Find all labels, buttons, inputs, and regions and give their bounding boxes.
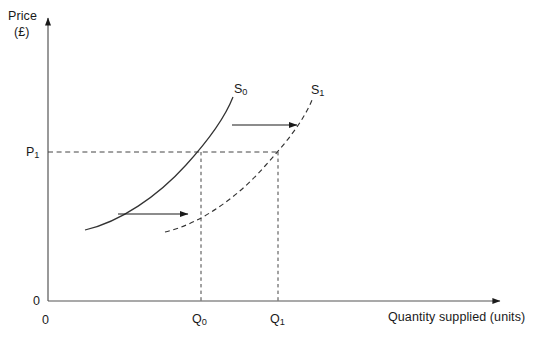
curve-label-s0: S0 [234, 82, 248, 96]
curve-label-s1-subscript: 1 [319, 88, 324, 98]
curve-label-s1: S1 [311, 83, 325, 97]
y-axis-title: Price [8, 9, 37, 23]
x-axis-title: Quantity supplied (units) [388, 310, 525, 324]
y-axis-origin-label: 0 [33, 294, 40, 308]
y-axis-tick-p1-subscript: 1 [34, 150, 39, 160]
x-axis-tick-q1: Q1 [270, 312, 285, 326]
x-axis-tick-q0: Q0 [192, 312, 207, 326]
x-axis-tick-q1-subscript: 1 [280, 317, 285, 327]
axis-group [48, 18, 500, 301]
x-axis-origin-label: 0 [42, 313, 49, 327]
supply-curve-s0 [85, 97, 233, 230]
reference-line-group [48, 152, 278, 301]
shift-arrow-group [118, 125, 297, 214]
chart-canvas [0, 0, 535, 337]
x-axis-tick-q0-subscript: 0 [202, 317, 207, 327]
y-axis-tick-p1: P1 [26, 145, 40, 159]
x-axis-tick-q1-base: Q [270, 312, 280, 326]
supply-curve-s1 [165, 100, 312, 232]
supply-curve-figure: Price (£) Quantity supplied (units) P1 0… [0, 0, 535, 337]
y-axis-unit-label: (£) [14, 25, 30, 39]
x-axis-tick-q0-base: Q [192, 312, 202, 326]
curve-label-s0-subscript: 0 [242, 87, 247, 97]
